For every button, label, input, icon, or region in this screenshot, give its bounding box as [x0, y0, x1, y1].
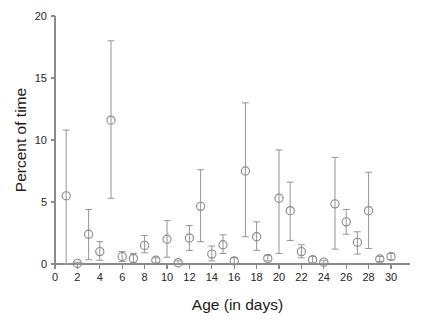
y-tick-label-0: 0 [41, 258, 47, 270]
x-tick-label-20: 20 [273, 271, 285, 283]
data-point-day-27 [353, 232, 361, 254]
x-tick-label-10: 10 [161, 271, 173, 283]
x-tick-label-26: 26 [340, 271, 352, 283]
data-point-day-13 [197, 170, 205, 242]
y-tick-label-15: 15 [35, 72, 47, 84]
x-tick-label-30: 30 [385, 271, 397, 283]
data-point-day-1 [62, 130, 70, 264]
x-tick-label-14: 14 [206, 271, 218, 283]
data-point-day-22 [297, 245, 305, 258]
data-point-day-16 [230, 257, 238, 265]
data-point-day-14 [208, 246, 216, 261]
data-point-day-21 [286, 182, 294, 240]
data-point-day-19 [264, 254, 272, 262]
data-point-day-15 [219, 235, 227, 254]
data-point-day-7 [129, 253, 137, 262]
x-tick-label-4: 4 [97, 271, 103, 283]
data-point-day-12 [185, 226, 193, 251]
data-point-day-8 [141, 235, 149, 252]
x-tick-label-18: 18 [250, 271, 262, 283]
data-point-day-25 [331, 157, 339, 249]
data-point-day-9 [152, 256, 160, 264]
y-tick-label-20: 20 [35, 10, 47, 22]
y-tick-label-10: 10 [35, 134, 47, 146]
x-tick-label-24: 24 [318, 271, 330, 283]
data-point-day-6 [118, 252, 126, 262]
x-tick-label-8: 8 [142, 271, 148, 283]
data-point-day-3 [85, 209, 93, 259]
x-tick-label-22: 22 [295, 271, 307, 283]
data-point-day-29 [376, 255, 384, 263]
data-point-day-26 [342, 209, 350, 234]
y-tick-label-5: 5 [41, 196, 47, 208]
data-point-day-18 [253, 222, 261, 251]
x-axis-title: Age (in days) [192, 296, 283, 313]
data-point-day-11 [174, 259, 182, 267]
x-tick-label-0: 0 [52, 271, 58, 283]
data-point-day-23 [309, 256, 317, 264]
data-point-day-17 [241, 103, 249, 237]
y-axis-title: Percent of time [12, 88, 29, 192]
data-point-day-20 [275, 150, 283, 254]
data-point-day-5 [107, 41, 115, 198]
x-tick-label-6: 6 [119, 271, 125, 283]
data-series-percent-of-time [62, 41, 395, 268]
x-tick-label-2: 2 [74, 271, 80, 283]
data-point-day-4 [96, 242, 104, 261]
x-tick-label-28: 28 [362, 271, 374, 283]
data-point-day-10 [163, 221, 171, 258]
data-point-day-28 [365, 172, 373, 248]
figure-container: 05101520024681012141618202224262830 Age … [0, 0, 422, 322]
x-tick-label-12: 12 [183, 271, 195, 283]
data-point-day-30 [387, 252, 395, 260]
scatter-plot: 05101520024681012141618202224262830 Age … [0, 0, 422, 322]
x-tick-label-16: 16 [228, 271, 240, 283]
